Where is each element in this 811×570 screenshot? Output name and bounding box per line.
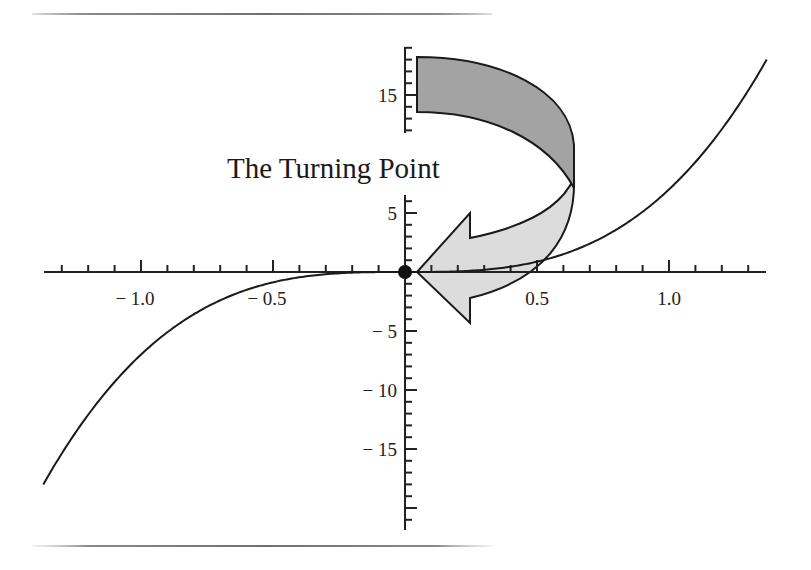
arrow-body-light [417,178,574,323]
annotation-title: The Turning Point [227,152,440,184]
x-tick-label: − 1.0 [115,288,154,309]
y-tick-label: − 5 [372,321,397,342]
y-tick-label: 5 [388,203,398,224]
x-tick-label: 1.0 [657,288,681,309]
x-tick-label: − 0.5 [247,288,286,309]
bottom-rule [32,545,492,547]
top-rule [32,13,492,15]
cubic-chart: − 1.0− 0.50.51.0 − 15− 10− 5515 The Turn… [0,0,811,570]
x-tick-label: 0.5 [525,288,549,309]
x-axis-tick-labels: − 1.0− 0.50.51.0 [115,288,680,309]
turning-point-arrow [417,57,574,323]
arrow-band-dark [417,57,574,188]
y-axis-ticks [405,48,417,520]
y-tick-label: − 15 [363,439,397,460]
y-tick-label: − 10 [363,380,397,401]
y-tick-label: 15 [378,85,397,106]
turning-point-marker [398,265,412,279]
